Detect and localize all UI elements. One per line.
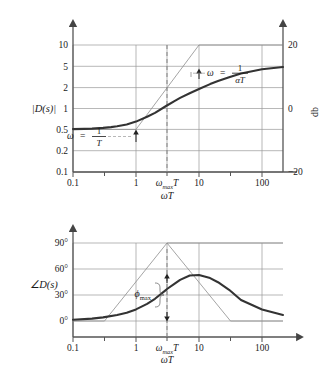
magnitude-ytick-5: 0.2 bbox=[56, 146, 68, 156]
magnitude-ytick-2: 2 bbox=[63, 83, 68, 93]
annotation-omega-1-over-T-lhs: ω bbox=[67, 131, 74, 141]
figure-canvas: 10 5 2 1 0.5 0.2 0.1 20 0 −20 0.1 1 10 1… bbox=[0, 0, 331, 365]
phase-omega-tail: T bbox=[173, 343, 179, 353]
phase-x-axis-title: ωT bbox=[161, 354, 175, 365]
magnitude-xtick-0: 0.1 bbox=[67, 178, 79, 188]
phase-xtick-3: 100 bbox=[255, 343, 270, 353]
annotation-omega-1-over-alphaT-lhs: ω bbox=[207, 68, 214, 78]
magnitude-xtick-3: 100 bbox=[255, 178, 270, 188]
phase-ytick-2: 30° bbox=[55, 290, 69, 300]
phase-ytick-0: 90° bbox=[55, 238, 69, 248]
magnitude-y-axis-title: |D(s)| bbox=[32, 103, 56, 115]
magnitude-xtick-1: 1 bbox=[134, 178, 139, 188]
phase-y-axis-title: ∠D(s) bbox=[30, 279, 58, 291]
magnitude-ytick-right-2: −20 bbox=[288, 167, 303, 177]
magnitude-xtick-2: 10 bbox=[194, 178, 204, 188]
magnitude-omega-tail: T bbox=[173, 178, 179, 188]
phase-xtick-0: 0.1 bbox=[67, 343, 79, 353]
magnitude-ytick-0: 10 bbox=[59, 40, 69, 50]
magnitude-y-axis-title-right: db bbox=[309, 107, 320, 117]
magnitude-ytick-6: 0.1 bbox=[56, 167, 68, 177]
annotation-omega-1-over-T-num: 1 bbox=[97, 126, 102, 136]
magnitude-ytick-right-0: 20 bbox=[288, 40, 298, 50]
bode-plot-figure: 10 5 2 1 0.5 0.2 0.1 20 0 −20 0.1 1 10 1… bbox=[0, 0, 331, 365]
annotation-omega-1-over-alphaT-num: 1 bbox=[238, 63, 243, 73]
phase-xtick-2: 10 bbox=[194, 343, 204, 353]
annotation-omega-1-over-alphaT-eq: = bbox=[220, 68, 225, 78]
annotation-omega-1-over-alphaT-den: αT bbox=[235, 75, 246, 85]
magnitude-ytick-1: 5 bbox=[63, 62, 68, 72]
magnitude-omega-subscript: max bbox=[162, 183, 173, 190]
phase-ytick-3: 0° bbox=[59, 316, 68, 326]
magnitude-ytick-3: 1 bbox=[63, 104, 68, 114]
annotation-omega-1-over-T-eq: = bbox=[80, 131, 85, 141]
magnitude-ytick-right-1: 0 bbox=[288, 104, 293, 114]
phi-max-subscript: max bbox=[140, 294, 152, 301]
phase-ytick-1: 60° bbox=[55, 264, 69, 274]
magnitude-x-axis-title: ωT bbox=[161, 190, 175, 201]
phase-xtick-1: 1 bbox=[134, 343, 139, 353]
